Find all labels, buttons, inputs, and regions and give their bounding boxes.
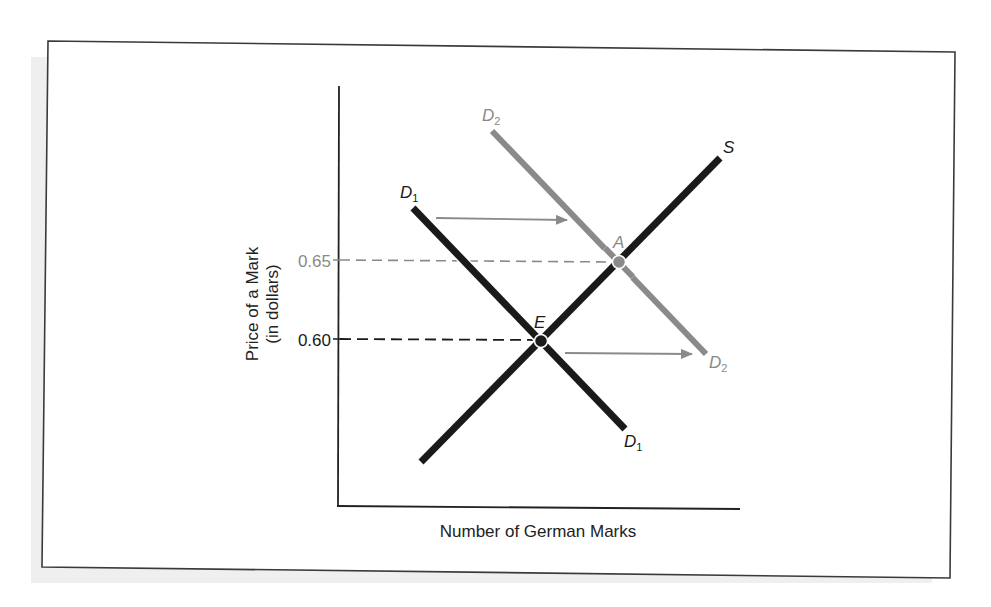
shift-arrow-lower <box>565 353 692 354</box>
equilibrium-point-a <box>613 256 626 269</box>
chart-canvas: D2 D1 S D2 D1 E A 0.65 0.60 Number of Ge… <box>0 0 991 607</box>
x-axis-title: Number of German Marks <box>440 522 637 541</box>
equilibrium-point-e <box>535 335 548 348</box>
label-point-e: E <box>534 313 546 332</box>
y-axis <box>338 86 339 506</box>
y-axis-title: Price of a Mark <box>243 246 262 361</box>
label-point-a: A <box>612 233 624 252</box>
y-tick-label-060: 0.60 <box>298 331 331 350</box>
label-s: S <box>723 138 735 157</box>
y-axis-subtitle: (in dollars) <box>263 264 282 343</box>
y-tick-label-065: 0.65 <box>298 252 331 271</box>
